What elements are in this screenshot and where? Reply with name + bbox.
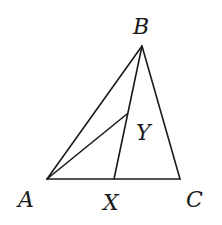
- label-x: X: [101, 190, 120, 215]
- triangle-diagram: B A X C Y: [0, 0, 222, 225]
- label-a: A: [16, 187, 34, 212]
- label-c: C: [186, 187, 203, 212]
- label-y: Y: [136, 120, 153, 145]
- label-b: B: [132, 14, 149, 39]
- segment-bc: [142, 46, 180, 179]
